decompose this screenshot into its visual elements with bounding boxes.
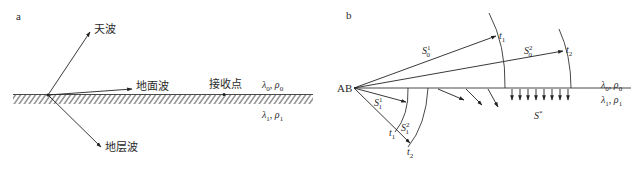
source-ab-label: AB (337, 83, 352, 94)
panel-a-letter: a (16, 11, 21, 22)
upper-t1-label: t1 (499, 31, 505, 44)
ground-wave-label: 地面波 (136, 81, 169, 92)
ray-s0-1-label: S10 (422, 45, 430, 59)
receiver-label: 接收点 (209, 79, 242, 90)
receiver-point (222, 93, 225, 96)
panel-b-letter: b (346, 10, 352, 21)
upper-t2-label: t2 (566, 45, 572, 58)
panel-a-lower-medium-params: λ1, ρ1 (262, 110, 283, 123)
ray-s1-2-label: S21 (401, 122, 409, 136)
refracted-arrow-1 (438, 89, 464, 100)
panel-b-lower-medium-params: λ1, ρ1 (601, 95, 622, 108)
s-star-label: S* (534, 110, 543, 121)
vertical-arrows-s-star (512, 89, 568, 100)
refracted-arrow-3 (488, 89, 498, 107)
lower-t1-label: t1 (389, 128, 395, 141)
ray-s0-1 (354, 36, 496, 88)
wavefront-upper-t2 (559, 29, 571, 88)
lower-t2-label: t2 (407, 147, 413, 160)
ray-s1-1-label: S11 (374, 97, 382, 111)
sky-wave-arrow (48, 32, 90, 95)
wavefront-lower-t2 (408, 88, 428, 147)
stratum-wave-label: 地层波 (105, 142, 138, 153)
panel-a-upper-medium-params: λ0, ρ0 (262, 80, 283, 93)
ray-s0-2-label: S20 (524, 45, 532, 59)
sky-wave-label: 天波 (94, 24, 116, 35)
refracted-arrow-2 (466, 89, 482, 105)
panel-b (354, 13, 631, 147)
ground-hatch (13, 95, 313, 104)
panel-b-upper-medium-params: λ0, ρ0 (601, 80, 622, 93)
wavefront-upper-t1 (489, 13, 505, 88)
wave-propagation-figure: a 天波 地面波 接收点 地层波 λ0, ρ0 λ1, ρ1 b AB S10 … (0, 0, 638, 170)
